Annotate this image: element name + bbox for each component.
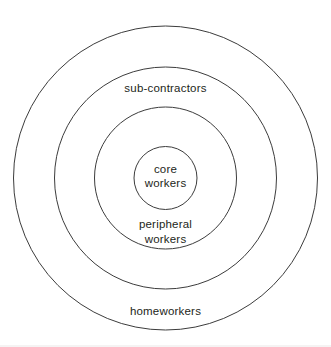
core-workers-label-line1: core — [0, 162, 331, 176]
homeworkers-label: homeworkers — [0, 304, 331, 318]
sub-contractors-label: sub-contractors — [0, 81, 331, 95]
peripheral-workers-label-line2: workers — [0, 232, 331, 246]
core-workers-label-line2: workers — [0, 176, 331, 190]
peripheral-workers-label-line1: peripheral — [0, 217, 331, 231]
concentric-rings-diagram: sub-contractors core workers peripheral … — [0, 0, 331, 347]
